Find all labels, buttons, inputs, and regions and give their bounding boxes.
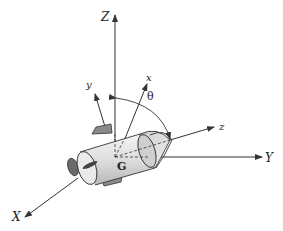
center-of-mass-label: G bbox=[117, 161, 126, 172]
z-body-axis bbox=[170, 127, 214, 140]
X-axis-label: X bbox=[12, 211, 21, 223]
theta-label: θ bbox=[147, 91, 154, 102]
diagram-canvas: Z Y X y x z G θ bbox=[0, 0, 283, 231]
rocket-axes-diagram bbox=[0, 0, 283, 231]
y-body-axis-label: y bbox=[86, 80, 92, 90]
Y-axis-label: Y bbox=[265, 152, 273, 164]
rocket-body bbox=[66, 124, 172, 187]
x-body-axis-label: x bbox=[146, 73, 152, 83]
y-body-axis bbox=[95, 94, 106, 130]
Z-axis-label: Z bbox=[101, 11, 109, 23]
X-axis bbox=[25, 178, 78, 217]
z-body-axis-label: z bbox=[219, 122, 224, 132]
